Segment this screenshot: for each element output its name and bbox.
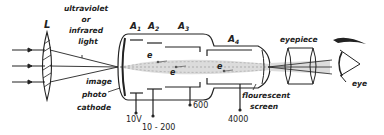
anode-a2-label: A2: [147, 21, 159, 32]
anode-a1-label: A1: [129, 21, 141, 32]
photocathode-label-1: photo: [81, 90, 107, 99]
anode-a1: [130, 40, 143, 114]
eyepiece-label: eyepiece: [280, 35, 318, 44]
lens-label: L: [44, 19, 50, 30]
voltage-a3: 600: [193, 101, 208, 110]
svg-text:e: e: [147, 51, 153, 60]
anode-a4: [207, 50, 252, 111]
photocathode-leader: [108, 88, 120, 92]
voltage-a1: 10V: [126, 115, 142, 124]
image-converter-diagram: L ultraviolet or infrared light image ph…: [0, 0, 384, 135]
anode-a4-label: A4: [227, 34, 239, 45]
photocathode-label-2: cathode: [77, 103, 111, 112]
svg-text:infrared: infrared: [69, 26, 104, 35]
voltage-a2: 10 - 200: [142, 123, 175, 132]
svg-text:or: or: [82, 15, 92, 24]
electron-beam: [120, 60, 270, 75]
eye-label: eye: [352, 79, 367, 88]
incoming-rays: [12, 48, 45, 84]
voltage-a4: 4000: [228, 115, 248, 124]
screen-label-1: flourescent: [242, 91, 291, 100]
light-label: ultraviolet or infrared light: [64, 4, 109, 46]
screen-label-2: screen: [250, 102, 278, 111]
svg-text:e: e: [170, 68, 176, 77]
image-label: image: [86, 77, 112, 86]
svg-text:light: light: [78, 37, 98, 46]
svg-text:e: e: [217, 62, 223, 71]
eye-icon: [333, 38, 366, 82]
anode-a3-label: A3: [177, 21, 189, 32]
svg-text:ultraviolet: ultraviolet: [64, 4, 109, 13]
